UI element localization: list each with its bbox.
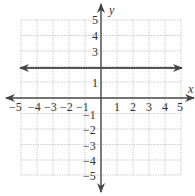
y-tick: 3 bbox=[92, 45, 98, 59]
x-tick: 3 bbox=[146, 100, 152, 114]
x-axis-label: x bbox=[187, 82, 194, 96]
x-tick: −2 bbox=[60, 100, 73, 114]
x-tick: −4 bbox=[28, 100, 41, 114]
x-tick: 4 bbox=[162, 100, 168, 114]
y-tick: 5 bbox=[92, 13, 98, 27]
x-tick: 5 bbox=[177, 100, 183, 114]
coordinate-plane: y x −5 −4 −3 −2 −1 1 2 3 4 5 5 4 3 1 −1 … bbox=[0, 0, 195, 196]
y-tick: −4 bbox=[83, 154, 96, 168]
y-tick: −1 bbox=[83, 108, 96, 122]
y-tick: 1 bbox=[92, 76, 98, 90]
x-tick: 2 bbox=[130, 100, 136, 114]
x-tick: −3 bbox=[44, 100, 57, 114]
y-tick: −3 bbox=[83, 139, 96, 153]
x-tick: 1 bbox=[114, 100, 120, 114]
x-tick: −5 bbox=[9, 100, 22, 114]
x-tick-labels: −5 −4 −3 −2 −1 1 2 3 4 5 bbox=[9, 100, 183, 114]
y-axis-label: y bbox=[108, 3, 115, 17]
y-tick: −2 bbox=[83, 123, 96, 137]
y-tick: −5 bbox=[83, 169, 96, 183]
y-tick: 4 bbox=[92, 29, 98, 43]
